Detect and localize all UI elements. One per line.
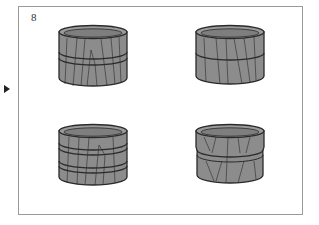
triangle-right-icon xyxy=(4,85,10,93)
cylinder-option-a[interactable] xyxy=(57,24,129,88)
cylinder-option-d[interactable] xyxy=(194,123,266,185)
cylinder-icon xyxy=(57,24,129,88)
cylinder-icon xyxy=(57,123,129,187)
cylinder-option-b[interactable] xyxy=(194,24,266,86)
cylinder-icon xyxy=(194,123,266,185)
cylinder-icon xyxy=(194,24,266,86)
figure-number: 8 xyxy=(31,11,37,23)
cylinder-option-c[interactable] xyxy=(57,123,129,187)
